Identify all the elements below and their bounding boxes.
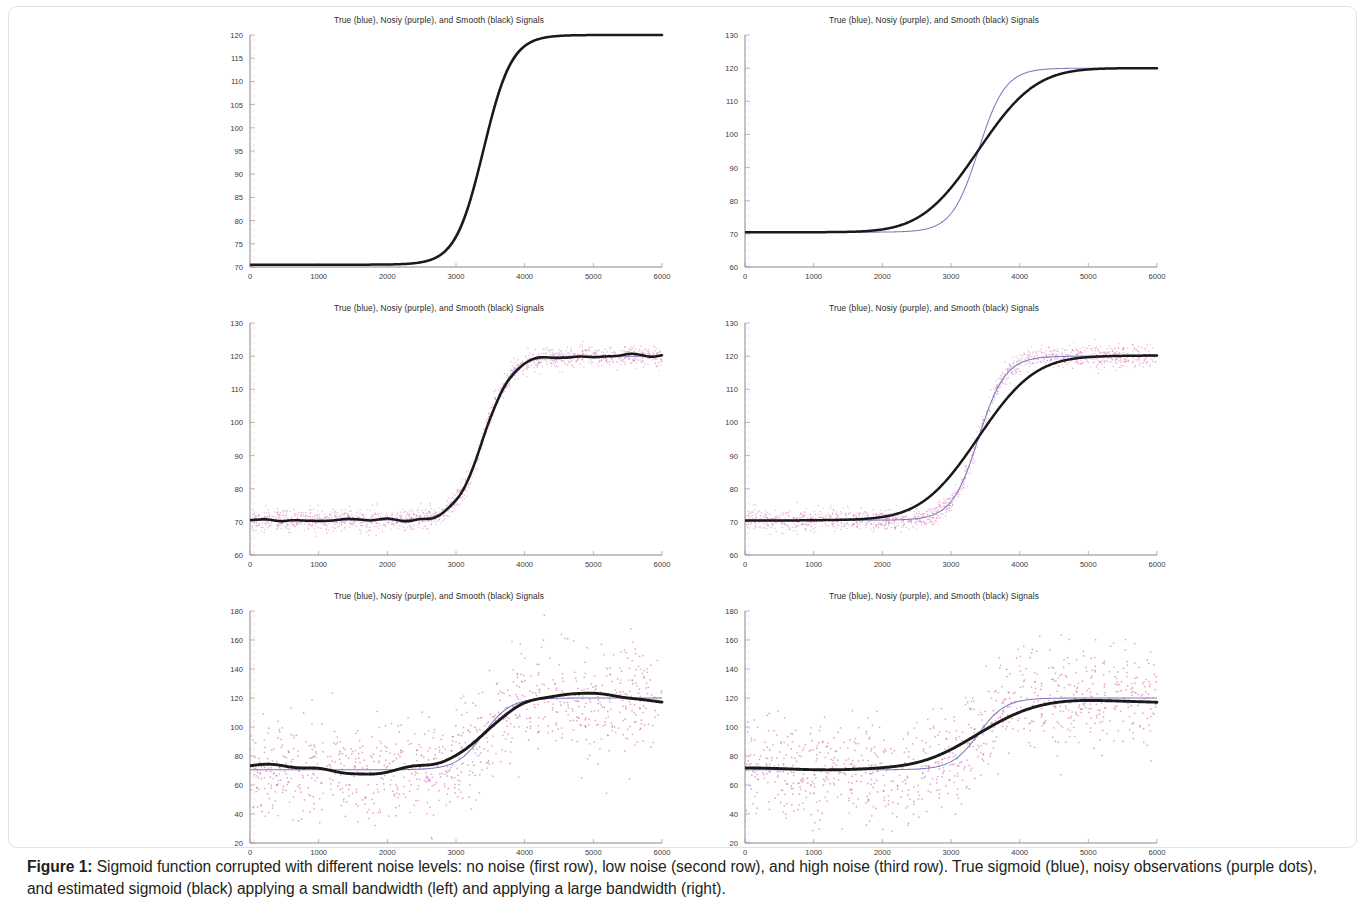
- true-signal-curve: [745, 68, 1157, 232]
- svg-text:90: 90: [235, 170, 243, 179]
- svg-text:180: 180: [230, 607, 243, 616]
- svg-text:3000: 3000: [448, 560, 465, 569]
- noisy-points: [745, 339, 1157, 535]
- svg-text:90: 90: [730, 452, 738, 461]
- plot-area-row1-left: 7075808590951001051101151200100020003000…: [204, 25, 674, 293]
- svg-text:60: 60: [730, 551, 738, 560]
- true-signal-curve: [745, 698, 1157, 770]
- svg-text:110: 110: [231, 385, 243, 394]
- svg-text:3000: 3000: [448, 272, 465, 281]
- true-signal-curve: [250, 356, 662, 520]
- svg-text:1000: 1000: [310, 272, 327, 281]
- chart-panel-row1-right: True (blue), Nosiy (purple), and Smooth …: [699, 15, 1169, 293]
- noisy-points: [249, 614, 662, 839]
- svg-text:40: 40: [730, 810, 738, 819]
- svg-text:5000: 5000: [585, 272, 602, 281]
- svg-text:110: 110: [726, 385, 738, 394]
- svg-text:70: 70: [235, 263, 243, 272]
- svg-text:115: 115: [231, 54, 243, 63]
- svg-text:3000: 3000: [943, 272, 960, 281]
- svg-text:90: 90: [235, 452, 243, 461]
- svg-text:70: 70: [235, 518, 243, 527]
- svg-text:40: 40: [235, 810, 243, 819]
- svg-text:70: 70: [730, 518, 738, 527]
- chart-panel-row3-left: True (blue), Nosiy (purple), and Smooth …: [204, 591, 674, 869]
- svg-text:6000: 6000: [1149, 560, 1166, 569]
- svg-text:160: 160: [725, 636, 738, 645]
- svg-text:160: 160: [230, 636, 243, 645]
- svg-text:80: 80: [730, 197, 738, 206]
- plot-area-row1-right: 6070809010011012013001000200030004000500…: [699, 25, 1169, 293]
- panel-title: True (blue), Nosiy (purple), and Smooth …: [699, 591, 1169, 601]
- svg-text:60: 60: [730, 781, 738, 790]
- svg-text:100: 100: [725, 418, 738, 427]
- svg-text:2000: 2000: [874, 560, 891, 569]
- smooth-signal-curve: [745, 700, 1157, 769]
- svg-text:2000: 2000: [379, 560, 396, 569]
- true-signal-curve: [250, 35, 662, 265]
- svg-text:85: 85: [235, 193, 243, 202]
- figure-caption-body: Sigmoid function corrupted with differen…: [27, 858, 1317, 897]
- svg-text:6000: 6000: [1149, 272, 1166, 281]
- svg-text:4000: 4000: [1011, 560, 1028, 569]
- svg-text:100: 100: [230, 418, 243, 427]
- svg-text:140: 140: [230, 665, 243, 674]
- panel-title: True (blue), Nosiy (purple), and Smooth …: [204, 591, 674, 601]
- svg-text:100: 100: [725, 723, 738, 732]
- svg-text:60: 60: [235, 781, 243, 790]
- svg-text:120: 120: [725, 694, 738, 703]
- svg-text:140: 140: [725, 665, 738, 674]
- svg-text:100: 100: [230, 124, 243, 133]
- svg-text:80: 80: [235, 752, 243, 761]
- svg-text:130: 130: [725, 319, 738, 328]
- svg-text:4000: 4000: [516, 272, 533, 281]
- svg-text:130: 130: [230, 319, 243, 328]
- svg-text:100: 100: [230, 723, 243, 732]
- svg-text:120: 120: [230, 31, 243, 40]
- svg-text:180: 180: [725, 607, 738, 616]
- svg-text:60: 60: [235, 551, 243, 560]
- smooth-signal-curve: [250, 35, 662, 265]
- svg-text:80: 80: [730, 485, 738, 494]
- svg-text:120: 120: [725, 352, 738, 361]
- svg-text:95: 95: [235, 147, 243, 156]
- panel-title: True (blue), Nosiy (purple), and Smooth …: [699, 15, 1169, 25]
- plot-area-row3-left: 2040608010012014016018001000200030004000…: [204, 601, 674, 869]
- plot-area-row3-right: 2040608010012014016018001000200030004000…: [699, 601, 1169, 869]
- smooth-signal-curve: [745, 355, 1157, 520]
- svg-text:3000: 3000: [943, 560, 960, 569]
- svg-text:6000: 6000: [654, 272, 671, 281]
- svg-text:130: 130: [725, 31, 738, 40]
- svg-text:110: 110: [231, 77, 243, 86]
- figure-caption: Figure 1: Sigmoid function corrupted wit…: [27, 856, 1345, 900]
- chart-panel-row2-right: True (blue), Nosiy (purple), and Smooth …: [699, 303, 1169, 581]
- svg-text:1000: 1000: [310, 560, 327, 569]
- svg-text:80: 80: [235, 485, 243, 494]
- svg-text:60: 60: [730, 263, 738, 272]
- panel-title: True (blue), Nosiy (purple), and Smooth …: [204, 303, 674, 313]
- svg-text:20: 20: [730, 839, 738, 848]
- svg-text:100: 100: [725, 130, 738, 139]
- smooth-signal-curve: [745, 68, 1157, 232]
- noisy-points: [250, 341, 662, 537]
- svg-text:4000: 4000: [516, 560, 533, 569]
- panel-title: True (blue), Nosiy (purple), and Smooth …: [699, 303, 1169, 313]
- svg-text:70: 70: [730, 230, 738, 239]
- svg-text:4000: 4000: [1011, 272, 1028, 281]
- svg-text:75: 75: [235, 240, 243, 249]
- svg-text:80: 80: [235, 217, 243, 226]
- svg-text:6000: 6000: [654, 560, 671, 569]
- svg-text:2000: 2000: [379, 272, 396, 281]
- svg-text:0: 0: [248, 272, 252, 281]
- svg-text:20: 20: [235, 839, 243, 848]
- svg-text:120: 120: [725, 64, 738, 73]
- svg-text:5000: 5000: [585, 560, 602, 569]
- svg-text:80: 80: [730, 752, 738, 761]
- svg-text:1000: 1000: [805, 272, 822, 281]
- svg-text:2000: 2000: [874, 272, 891, 281]
- figure-frame: True (blue), Nosiy (purple), and Smooth …: [8, 6, 1357, 848]
- svg-text:5000: 5000: [1080, 560, 1097, 569]
- svg-text:110: 110: [726, 97, 738, 106]
- svg-text:0: 0: [248, 560, 252, 569]
- smooth-signal-curve: [250, 354, 662, 522]
